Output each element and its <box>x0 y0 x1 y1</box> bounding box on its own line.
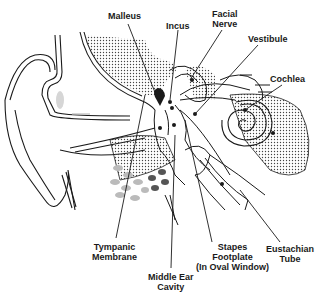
label-tympanic-line1: Tympanic <box>92 242 137 252</box>
label-facial-nerve-line1: Facial <box>212 9 238 19</box>
malleus-shape <box>154 88 165 106</box>
bone-near-vestibule <box>185 66 215 100</box>
label-incus: Incus <box>166 21 190 31</box>
label-tympanic-membrane: Tympanic Membrane <box>92 242 137 262</box>
dark-tissue <box>148 169 169 191</box>
label-middle-ear-cavity: Middle Ear Cavity <box>148 272 194 292</box>
label-middle-ear-line1: Middle Ear <box>148 272 194 282</box>
label-stapes-line3: (In Oval Window) <box>196 262 269 272</box>
label-facial-nerve-line2: Nerve <box>212 19 238 29</box>
label-malleus: Malleus <box>108 11 141 21</box>
label-facial-nerve: Facial Nerve <box>212 9 238 29</box>
label-eustachian-tube: Eustachian Tube <box>266 244 314 264</box>
eustachian-tube-shape <box>165 155 265 225</box>
label-stapes-footplate: Stapes Footplate (In Oval Window) <box>196 242 269 272</box>
label-tympanic-line2: Membrane <box>92 252 137 262</box>
label-middle-ear-line2: Cavity <box>148 282 194 292</box>
label-vestibule: Vestibule <box>248 34 288 44</box>
ear-anatomy-diagram: Malleus Incus Facial Nerve Vestibule Coc… <box>0 0 318 307</box>
label-eustachian-line2: Tube <box>266 254 314 264</box>
label-stapes-line1: Stapes <box>196 242 269 252</box>
label-cochlea: Cochlea <box>270 74 305 84</box>
label-eustachian-line1: Eustachian <box>266 244 314 254</box>
label-stapes-line2: Footplate <box>196 252 269 262</box>
